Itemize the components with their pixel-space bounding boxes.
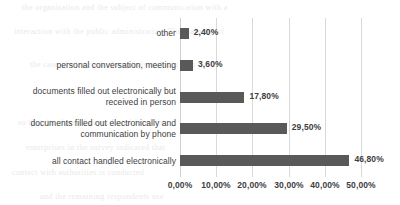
category-axis-row: documents filled out electronically but … [0, 82, 176, 114]
category-label: documents filled out electronically and … [0, 118, 176, 140]
bar-value-label: 46,80% [354, 154, 383, 164]
value-axis: 0,00% 10,00% 20,00% 30,00% 40,00% 50,00% [180, 180, 361, 194]
category-axis-row: all contact handled electronically [0, 145, 176, 177]
bar-other[interactable] [180, 28, 189, 39]
scan-bleed-line: the organisation and the subject of comm… [22, 3, 228, 12]
x-tick-label: 40,00% [310, 180, 339, 190]
category-label: documents filled out electronically but … [0, 86, 176, 108]
category-label: all contact handled electronically [0, 156, 176, 167]
category-label: personal conversation, meeting [0, 60, 176, 71]
x-tick-label: 10,00% [201, 180, 230, 190]
bar-row: 2,40% [180, 18, 361, 50]
bar-value-label: 3,60% [198, 59, 223, 69]
category-label: other [0, 28, 176, 39]
category-axis-row: personal conversation, meeting [0, 50, 176, 82]
x-tick-label: 30,00% [274, 180, 303, 190]
bar-row: 29,50% [180, 113, 361, 145]
bar-chart: the organisation and the subject of comm… [0, 0, 400, 205]
bar-row: 46,80% [180, 145, 361, 177]
category-axis: other personal conversation, meeting doc… [0, 18, 176, 177]
x-tick-label: 0,00% [168, 180, 193, 190]
bar-documents-electronic-received-in-person[interactable] [180, 92, 244, 103]
x-tick-label: 20,00% [237, 180, 266, 190]
category-axis-row: documents filled out electronically and … [0, 113, 176, 145]
gridline-50 [361, 18, 362, 177]
bar-value-label: 29,50% [292, 122, 321, 132]
bar-all-contact-handled-electronically[interactable] [180, 155, 349, 166]
bar-row: 17,80% [180, 82, 361, 114]
bar-personal-conversation-meeting[interactable] [180, 60, 193, 71]
scan-bleed-line: and the remaining respondents use [40, 192, 164, 201]
x-tick-label: 50,00% [346, 180, 375, 190]
plot-area: 2,40% 3,60% 17,80% 29,50% 46,80% [180, 18, 361, 177]
bar-documents-electronic-and-phone[interactable] [180, 123, 287, 134]
bar-value-label: 17,80% [249, 91, 278, 101]
bar-value-label: 2,40% [194, 27, 219, 37]
category-axis-row: other [0, 18, 176, 50]
bar-row: 3,60% [180, 50, 361, 82]
